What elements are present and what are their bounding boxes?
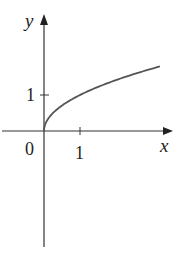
- x-tick-label-1: 1: [75, 144, 84, 162]
- x-axis-arrow-icon: [163, 127, 173, 135]
- y-axis-label: y: [25, 11, 33, 30]
- sqrt-curve: [44, 66, 160, 131]
- graph-canvas: [0, 0, 185, 270]
- y-tick-label-1: 1: [26, 86, 35, 104]
- origin-label: 0: [25, 140, 34, 158]
- y-axis-arrow-icon: [40, 14, 48, 25]
- x-axis-label: x: [160, 136, 168, 155]
